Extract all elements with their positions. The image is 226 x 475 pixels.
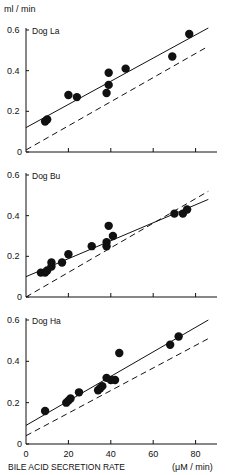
panel-3: 00.20.40.6020406080Dog Ha <box>7 315 217 459</box>
data-point <box>104 69 112 77</box>
data-point <box>174 332 182 340</box>
y-tick-label: 0 <box>17 439 22 449</box>
y-tick-label: 0 <box>17 147 22 157</box>
data-point <box>185 30 193 38</box>
panel-1: 00.20.40.6Dog La <box>7 25 217 157</box>
data-point <box>183 205 191 213</box>
data-point <box>58 258 66 266</box>
x-tick-label: 60 <box>148 449 158 459</box>
figure: ml / min 00.20.40.6Dog La00.20.40.6Dog B… <box>0 0 226 475</box>
regression-line <box>26 28 208 128</box>
data-point <box>64 91 72 99</box>
y-tick-label: 0.4 <box>7 211 20 221</box>
x-tick-label: 20 <box>63 449 73 459</box>
data-point <box>109 232 117 240</box>
y-tick-label: 0.2 <box>7 398 20 408</box>
y-tick-label: 0.2 <box>7 106 20 116</box>
y-tick-label: 0 <box>17 292 22 302</box>
data-point <box>64 250 72 258</box>
data-point <box>104 222 112 230</box>
data-point <box>102 89 110 97</box>
data-point <box>88 242 96 250</box>
data-point <box>104 81 112 89</box>
x-tick-label: 40 <box>106 449 116 459</box>
x-axis-label: BILE ACID SECRETION RATE <box>8 462 125 472</box>
panel-title: Dog Bu <box>32 171 61 181</box>
x-tick-label: 0 <box>23 449 28 459</box>
y-tick-label: 0.6 <box>7 315 20 325</box>
data-point <box>41 407 49 415</box>
data-point <box>166 341 174 349</box>
x-tick-label: 80 <box>191 449 201 459</box>
data-point <box>168 52 176 60</box>
panels: 00.20.40.6Dog La00.20.40.6Dog Bu00.20.40… <box>7 25 217 459</box>
y-unit-label: ml / min <box>4 4 36 14</box>
reference-line <box>26 191 208 297</box>
y-tick-label: 0.2 <box>7 251 20 261</box>
x-axis-unit: (μM / min) <box>172 462 213 472</box>
data-point <box>102 238 110 246</box>
y-tick-label: 0.4 <box>7 66 20 76</box>
panel-title: Dog La <box>32 26 60 36</box>
data-point <box>43 115 51 123</box>
data-point <box>47 258 55 266</box>
data-point <box>73 93 81 101</box>
data-point <box>121 64 129 72</box>
data-point <box>170 209 178 217</box>
data-point <box>98 382 106 390</box>
panel-2: 00.20.40.6Dog Bu <box>7 170 217 302</box>
panel-title: Dog Ha <box>32 316 61 326</box>
data-point <box>66 394 74 402</box>
data-point <box>111 376 119 384</box>
y-tick-label: 0.4 <box>7 356 20 366</box>
reference-line <box>26 46 208 150</box>
y-tick-label: 0.6 <box>7 25 20 35</box>
data-point <box>75 388 83 396</box>
data-point <box>115 349 123 357</box>
y-tick-label: 0.6 <box>7 170 20 180</box>
